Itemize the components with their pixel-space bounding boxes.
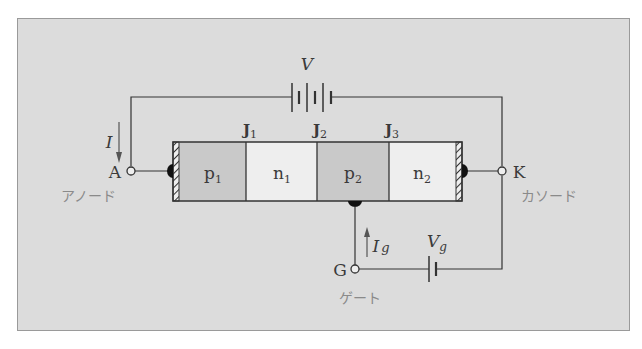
cathode-symbol-label: K: [513, 162, 526, 182]
anode-symbol-label: A: [108, 162, 122, 182]
anode-electrode: [173, 142, 179, 201]
battery-vg-label: Vg: [427, 231, 447, 254]
junction-j3-label: J3: [383, 121, 399, 141]
cathode-electrode: [456, 142, 462, 201]
thyristor-diagram: V I p1 n1 p2 n2 J1 J2 J3 A アノード K カソード G…: [0, 0, 642, 349]
battery-v-icon: [292, 83, 331, 112]
current-ig-label: Ig: [371, 236, 389, 256]
gate-name-label: ゲート: [339, 290, 381, 306]
battery-v-label: V: [301, 54, 315, 74]
gate-terminal-icon: [351, 265, 359, 273]
junction-j1-label: J1: [241, 121, 257, 141]
gate-symbol-label: G: [333, 260, 347, 280]
current-i-arrow-icon: [116, 122, 122, 163]
junction-j2-label: J2: [311, 121, 327, 141]
anode-terminal-icon: [127, 167, 135, 175]
anode-name-label: アノード: [61, 188, 116, 204]
battery-vg-icon: [429, 256, 436, 282]
cathode-terminal-icon: [498, 167, 506, 175]
current-ig-arrow-icon: [364, 227, 370, 257]
cathode-name-label: カソード: [521, 188, 577, 204]
current-i-label: I: [105, 132, 113, 152]
